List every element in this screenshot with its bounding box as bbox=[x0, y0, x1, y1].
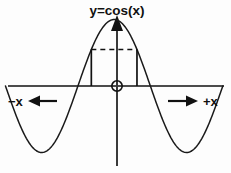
cosine-figure: y=cos(x) −x +x bbox=[0, 0, 231, 173]
negative-x-label: −x bbox=[8, 94, 24, 109]
cosine-plot-svg: y=cos(x) −x +x bbox=[0, 0, 231, 173]
right-direction-arrow-icon bbox=[186, 96, 198, 107]
positive-x-label: +x bbox=[203, 94, 219, 109]
left-direction-arrow-icon bbox=[28, 96, 40, 107]
plot-title: y=cos(x) bbox=[89, 3, 144, 18]
